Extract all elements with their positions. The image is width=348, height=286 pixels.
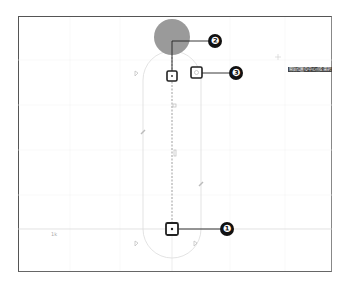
dim-label-top xyxy=(173,104,176,107)
axis-label: 1k xyxy=(51,231,57,237)
tangent-icon xyxy=(135,71,138,76)
prompt-tooltip: 開始位置の中心点を選択 xyxy=(288,67,332,72)
tangent-icon xyxy=(135,241,138,246)
dim-label-mid xyxy=(174,150,176,156)
snap-point-icon xyxy=(191,67,202,78)
callout-3: ❸ xyxy=(229,66,243,80)
callout-2: ❷ xyxy=(208,34,222,48)
callout-1: ❶ xyxy=(220,222,234,236)
canvas-drawing xyxy=(0,0,348,286)
crosshair-icon xyxy=(275,54,281,60)
